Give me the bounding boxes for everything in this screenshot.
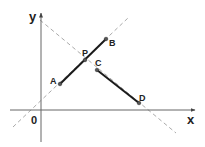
- point-c: [95, 68, 99, 72]
- origin-label: 0: [31, 114, 37, 126]
- point-label-b: B: [109, 38, 116, 48]
- diagram-canvas: y x 0 A P B C D: [0, 0, 205, 147]
- dashed-line-cd: [40, 20, 176, 133]
- point-p: [83, 58, 87, 62]
- x-axis-label: x: [187, 112, 195, 127]
- point-label-a: A: [50, 76, 57, 86]
- point-b: [104, 37, 108, 41]
- coordinate-plane: y x 0 A P B C D: [0, 0, 205, 147]
- y-axis-label: y: [29, 9, 37, 24]
- point-label-c: C: [95, 58, 102, 68]
- point-label-p: P: [82, 48, 88, 58]
- segment-cd: [97, 70, 139, 103]
- point-a: [58, 82, 62, 86]
- point-label-d: D: [139, 93, 146, 103]
